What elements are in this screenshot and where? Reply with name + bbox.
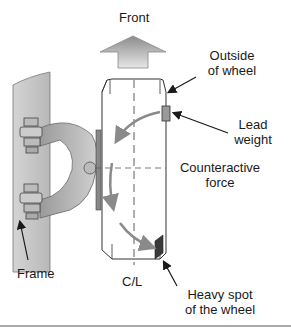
- label-front: Front: [119, 10, 149, 25]
- label-lead-line2: weight: [228, 132, 278, 147]
- label-heavy-line2: of the wheel: [175, 302, 265, 317]
- hub-plate: [96, 130, 101, 210]
- lead-weight: [162, 106, 170, 121]
- label-counter-line2: force: [170, 175, 270, 190]
- label-outside-line2: of wheel: [197, 63, 267, 78]
- label-frame: Frame: [17, 266, 55, 281]
- label-lead-weight: Lead weight: [228, 117, 278, 147]
- label-outside-line1: Outside: [197, 48, 267, 63]
- label-counteractive-force: Counteractive force: [170, 160, 270, 190]
- label-heavy-line1: Heavy spot: [175, 287, 265, 302]
- label-heavy-spot: Heavy spot of the wheel: [175, 287, 265, 317]
- frame-rail: [13, 72, 50, 272]
- label-lead-line1: Lead: [228, 117, 278, 132]
- label-outside-of-wheel: Outside of wheel: [197, 48, 267, 78]
- label-counter-line1: Counteractive: [170, 160, 270, 175]
- label-centerline: C/L: [122, 274, 142, 289]
- wheel: [95, 79, 166, 265]
- front-arrow-icon: [100, 36, 166, 68]
